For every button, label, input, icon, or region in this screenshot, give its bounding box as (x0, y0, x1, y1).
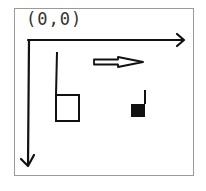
hollow-square-with-stem (56, 52, 79, 121)
filled-square-with-stem (131, 90, 145, 117)
y-axis (21, 40, 34, 166)
x-axis (28, 34, 184, 46)
motion-arrow-icon (94, 57, 143, 67)
diagram-canvas (0, 0, 206, 191)
